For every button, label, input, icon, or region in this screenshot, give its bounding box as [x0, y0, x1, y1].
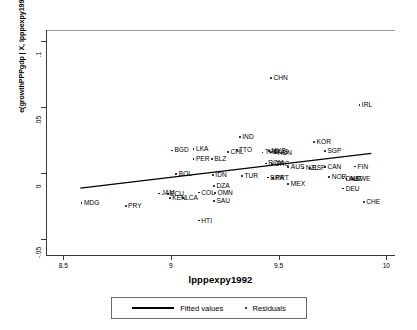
chart-legend: Fitted values Residuals — [111, 297, 307, 319]
scatter-point — [167, 193, 169, 195]
line-swatch-icon — [132, 307, 174, 308]
dot-swatch-icon — [245, 307, 247, 309]
scatter-point — [270, 77, 272, 79]
y-tick-mark — [41, 107, 46, 108]
scatter-point-label: OMN — [218, 189, 233, 196]
x-axis-line — [46, 255, 395, 256]
scatter-point-label: CHE — [366, 198, 380, 205]
scatter-point-label: CAN — [327, 163, 341, 170]
scatter-point-label: IDN — [215, 171, 226, 178]
scatter-point-label: MDG — [84, 199, 99, 206]
scatter-point-label: PRY — [128, 202, 141, 209]
scatter-point — [271, 163, 273, 165]
y-axis-title: e(growthPPPgdp | X, lpppexpy1992) + b*lp… — [17, 0, 26, 143]
scatter-point-label: LCA — [185, 194, 198, 201]
x-tick-mark — [171, 255, 172, 260]
scatter-point — [324, 150, 326, 152]
scatter-point — [169, 197, 171, 199]
legend-item-fitted: Fitted values — [132, 304, 223, 313]
scatter-point-label: COL — [201, 189, 215, 196]
scatter-point-label: SWE — [355, 175, 370, 182]
scatter-point — [213, 185, 215, 187]
scatter-point-label: FIN — [358, 163, 369, 170]
x-tick-label: 9 — [156, 262, 186, 269]
y-tick-mark — [41, 41, 46, 42]
scatter-point-label: SGP — [327, 147, 341, 154]
x-tick-mark — [279, 255, 280, 260]
legend-label-fitted: Fitted values — [180, 304, 223, 313]
scatter-point-label: CHN — [274, 74, 288, 81]
scatter-point — [239, 136, 241, 138]
y-tick-label: -.05 — [35, 239, 42, 267]
scatter-point — [125, 205, 127, 207]
scatter-point-label: HUN — [278, 149, 292, 156]
x-tick-mark — [386, 255, 387, 260]
legend-label-residuals: Residuals — [252, 304, 285, 313]
y-tick-label: 0 — [35, 172, 42, 200]
plot-frame — [46, 30, 395, 255]
scatter-point — [211, 158, 213, 160]
scatter-point-label: BOL — [179, 170, 192, 177]
scatter-point-label: KOR — [317, 138, 331, 145]
scatter-point-label: HTI — [201, 217, 212, 224]
scatter-point-label: KEN — [172, 194, 186, 201]
partial-regression-plot: e(growthPPPgdp | X, lpppexpy1992) + b*lp… — [0, 0, 417, 330]
scatter-point — [227, 151, 229, 153]
x-tick-mark — [63, 255, 64, 260]
scatter-point — [214, 192, 216, 194]
scatter-point-label: BLZ — [214, 155, 226, 162]
scatter-point-label: IRL — [362, 101, 372, 108]
scatter-point-label: DZA — [216, 182, 229, 189]
y-tick-mark — [41, 173, 46, 174]
scatter-point-label: MEX — [291, 180, 305, 187]
x-tick-label: 10 — [371, 262, 401, 269]
scatter-point-label: SAU — [216, 197, 230, 204]
x-tick-label: 9.5 — [264, 262, 294, 269]
x-tick-label: 8.5 — [48, 262, 78, 269]
scatter-point-label: PRT — [276, 174, 289, 181]
scatter-point-label: BGD — [174, 146, 188, 153]
y-tick-label: .05 — [35, 106, 42, 134]
scatter-point-label: NOR — [332, 173, 347, 180]
scatter-point-label: DEU — [346, 185, 360, 192]
legend-item-residuals: Residuals — [223, 304, 286, 313]
y-tick-mark — [41, 239, 46, 240]
scatter-point — [309, 167, 311, 169]
x-axis-title: lpppexpy1992 — [46, 274, 395, 285]
scatter-point-label: IND — [242, 133, 253, 140]
y-axis-line — [46, 30, 47, 255]
y-tick-label: .1 — [35, 40, 42, 68]
scatter-point-label: LKA — [196, 145, 208, 152]
scatter-point-label: TUR — [244, 172, 258, 179]
scatter-point — [236, 149, 238, 151]
scatter-point — [241, 175, 243, 177]
scatter-point-label: PER — [196, 155, 210, 162]
scatter-point-label: TTO — [239, 146, 252, 153]
